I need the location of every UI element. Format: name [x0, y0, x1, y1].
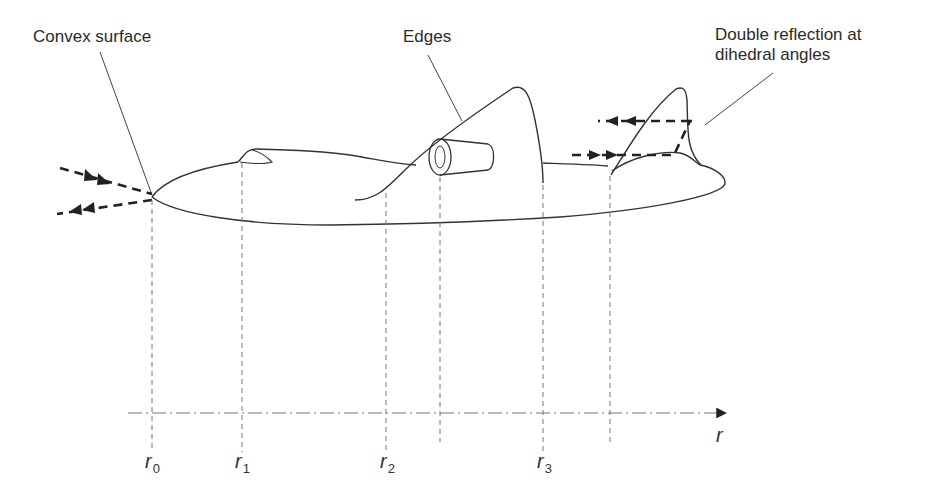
engine-nozzle: [429, 139, 494, 175]
range-label-r1: r1: [235, 450, 250, 476]
range-label-r0: r0: [145, 450, 160, 476]
dihedral-ray-arrowheads: [589, 116, 636, 160]
range-label-base: r: [537, 450, 544, 472]
aircraft-scattering-diagram: [0, 0, 952, 504]
wing: [355, 87, 543, 200]
dihedral-rays: [572, 121, 692, 155]
projection-guides: [152, 163, 610, 452]
callout-edges: Edges: [403, 27, 451, 47]
fuselage: [152, 149, 725, 225]
range-label-subscript: 1: [243, 461, 250, 476]
range-axis-label: r: [716, 424, 723, 447]
range-label-subscript: 0: [153, 461, 160, 476]
range-label-subscript: 2: [388, 461, 395, 476]
range-label-r3: r3: [537, 450, 552, 476]
range-label-base: r: [145, 450, 152, 472]
range-label-base: r: [380, 450, 387, 472]
range-label-r2: r2: [380, 450, 395, 476]
vertical-fin: [611, 88, 701, 175]
convex-rays: [57, 168, 152, 214]
callout-double-reflection-line1: Double reflection at: [715, 25, 861, 45]
callout-double-reflection-line2: dihedral angles: [715, 45, 861, 65]
range-label-base: r: [235, 450, 242, 472]
callout-double-reflection: Double reflection at dihedral angles: [715, 25, 861, 65]
range-label-subscript: 3: [545, 461, 552, 476]
callout-convex-surface: Convex surface: [33, 27, 151, 47]
